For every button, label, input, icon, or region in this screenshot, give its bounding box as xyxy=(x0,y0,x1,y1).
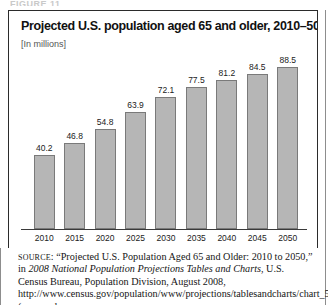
x-tick-label: 2010 xyxy=(29,230,59,244)
source-note: source: “Projected U.S. Population Aged … xyxy=(18,250,314,305)
bar xyxy=(216,80,237,229)
bar xyxy=(186,87,207,229)
bar-value-label: 46.8 xyxy=(66,131,83,141)
chart-title: Projected U.S. population aged 65 and ol… xyxy=(21,19,309,33)
bar-slot: 54.8 xyxy=(90,55,120,229)
x-tick-label: 2015 xyxy=(59,230,89,244)
bar-slot: 81.2 xyxy=(212,55,242,229)
chart-units-label: [In millions] xyxy=(21,39,66,50)
bar-slot: 88.5 xyxy=(273,55,303,229)
page-edge-rule-right xyxy=(325,10,326,305)
bar-value-label: 63.9 xyxy=(127,100,144,110)
x-tick-label: 2025 xyxy=(120,230,150,244)
bar xyxy=(125,112,146,229)
bar xyxy=(155,97,176,229)
bar-value-label: 88.5 xyxy=(279,55,296,65)
bar-slot: 84.5 xyxy=(242,55,272,229)
bar-slot: 77.5 xyxy=(181,55,211,229)
plot-area: 40.246.854.863.972.177.581.284.588.5 201… xyxy=(21,55,307,248)
x-tick-label: 2035 xyxy=(181,230,211,244)
x-axis-tick-labels: 201020152020202520302035204020452050 xyxy=(29,230,303,244)
bar-value-label: 54.8 xyxy=(97,117,114,127)
source-publication-title: 2008 National Population Projections Tab… xyxy=(28,263,260,274)
bar xyxy=(34,155,55,229)
bar xyxy=(95,129,116,229)
bar-slot: 46.8 xyxy=(59,55,89,229)
bar-value-label: 72.1 xyxy=(158,85,175,95)
source-label: source xyxy=(18,250,51,262)
x-tick-label: 2020 xyxy=(90,230,120,244)
x-tick-label: 2050 xyxy=(273,230,303,244)
bar xyxy=(247,74,268,229)
x-tick-label: 2045 xyxy=(242,230,272,244)
bar-series: 40.246.854.863.972.177.581.284.588.5 xyxy=(29,55,303,229)
bar-value-label: 77.5 xyxy=(188,75,205,85)
bar-value-label: 81.2 xyxy=(219,68,236,78)
x-tick-label: 2040 xyxy=(212,230,242,244)
figure-box: Projected U.S. population aged 65 and ol… xyxy=(8,10,318,248)
figure-caption-remnant: FIGURE 11 xyxy=(10,0,100,6)
page-edge-rule-left xyxy=(0,248,1,305)
bar-value-label: 84.5 xyxy=(249,62,266,72)
bar-value-label: 40.2 xyxy=(36,143,53,153)
bar-slot: 72.1 xyxy=(151,55,181,229)
bar-slot: 40.2 xyxy=(29,55,59,229)
bar-slot: 63.9 xyxy=(120,55,150,229)
bar xyxy=(64,143,85,229)
x-tick-label: 2030 xyxy=(151,230,181,244)
bar xyxy=(277,67,298,229)
